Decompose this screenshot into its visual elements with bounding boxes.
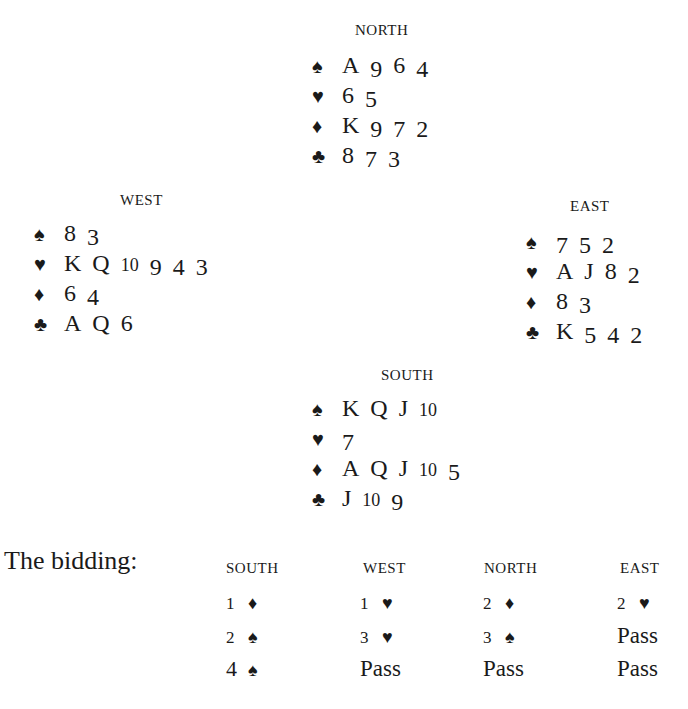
bid: 3♥ [360,623,393,649]
south-clubs-row: ♣J109 [312,483,414,513]
north-clubs-row: ♣873 [312,140,411,170]
diamond-icon: ♦ [248,593,257,613]
bidding-header-north: NORTH [484,560,537,577]
bid: 1♥ [360,589,393,615]
spade-icon: ♠ [505,627,515,647]
bid: Pass [617,656,658,682]
south-hearts-row: ♥7 [312,423,365,453]
card: J [584,256,593,286]
heart-icon: ♥ [526,257,556,287]
card: 6 [121,308,133,338]
card: 2 [416,114,428,144]
card: A [556,256,573,286]
card: K [64,248,81,278]
bid-level: 3 [483,628,505,648]
spade-icon: ♠ [248,660,258,680]
card: A [342,50,359,80]
bid: Pass [483,656,524,682]
club-icon: ♣ [526,317,556,347]
south-diamonds-row: ♦AQJ105 [312,453,471,483]
card: 10 [419,455,437,485]
south-title: SOUTH [381,367,434,384]
spade-icon: ♠ [312,51,342,81]
card: 6 [64,278,76,308]
card: Q [92,308,109,338]
bid-level: 2 [226,628,248,648]
diamond-icon: ♦ [34,279,64,309]
card: 7 [365,144,377,174]
card: J [399,453,408,483]
card: Q [370,393,387,423]
card: 3 [388,144,400,174]
card: J [399,393,408,423]
bid-level: 1 [226,594,248,614]
card: 8 [64,218,76,248]
card: 8 [342,140,354,170]
bid-level: 2 [483,594,505,614]
card: J [342,483,351,513]
card: 9 [150,252,162,282]
card: K [342,110,359,140]
east-spades-row: ♠752 [526,226,625,256]
card: 4 [416,54,428,84]
card: 5 [448,457,460,487]
bid-level: 3 [360,628,382,648]
bidding-header-south: SOUTH [226,560,279,577]
diamond-icon: ♦ [526,287,556,317]
heart-icon: ♥ [639,593,650,613]
west-clubs-row: ♣AQ6 [34,308,144,338]
card: 3 [196,252,208,282]
card: 6 [393,50,405,80]
card: A [342,453,359,483]
bid: 2♦ [483,589,514,615]
card: K [342,393,359,423]
heart-icon: ♥ [382,593,393,613]
card: 4 [607,320,619,350]
heart-icon: ♥ [312,424,342,454]
west-title: WEST [120,192,163,209]
spade-icon: ♠ [248,627,258,647]
card: 5 [584,320,596,350]
north-spades-row: ♠A964 [312,50,439,80]
card: 4 [173,252,185,282]
card: 10 [419,395,437,425]
south-spades-row: ♠KQJ10 [312,393,448,423]
diamond-icon: ♦ [505,593,514,613]
east-clubs-row: ♣K542 [526,316,653,346]
card: Q [92,248,109,278]
bid-level: 4 [226,656,248,682]
west-hearts-row: ♥KQ10943 [34,248,219,278]
diamond-icon: ♦ [312,454,342,484]
club-icon: ♣ [312,141,342,171]
north-diamonds-row: ♦K972 [312,110,439,140]
spade-icon: ♠ [34,219,64,249]
east-title: EAST [570,198,610,215]
card: 10 [121,250,139,280]
spade-icon: ♠ [312,394,342,424]
north-title: NORTH [355,22,408,39]
bidding-label: The bidding: [4,546,138,576]
bid: 4♠ [226,656,258,682]
west-spades-row: ♠83 [34,218,110,248]
bid: Pass [360,656,401,682]
card: 2 [628,260,640,290]
card: 8 [556,286,568,316]
club-icon: ♣ [312,484,342,514]
card: 8 [605,256,617,286]
card: 10 [362,485,380,515]
bid: 2♥ [617,589,650,615]
card: 9 [391,487,403,517]
heart-icon: ♥ [312,81,342,111]
diamond-icon: ♦ [312,111,342,141]
card: 2 [630,320,642,350]
bid-level: 2 [617,594,639,614]
bid: Pass [617,623,658,649]
heart-icon: ♥ [382,627,393,647]
bidding-header-east: EAST [620,560,660,577]
card: K [556,316,573,346]
card: Q [370,453,387,483]
bid-level: 1 [360,594,382,614]
east-diamonds-row: ♦83 [526,286,602,316]
card: 6 [342,80,354,110]
card: A [64,308,81,338]
